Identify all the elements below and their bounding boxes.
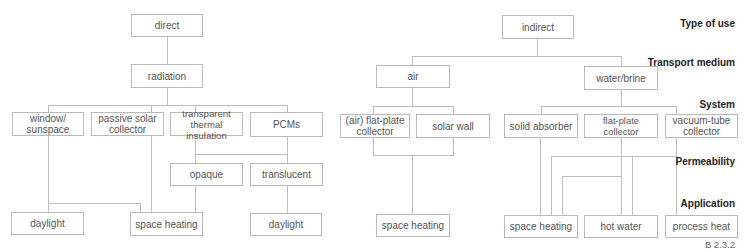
node-indirect: indirect: [502, 15, 574, 39]
node-hot-water: hot water: [584, 215, 658, 238]
node-window-sunspace: window/ sunspace: [12, 112, 84, 136]
node-space-heating-direct: space heating: [130, 212, 203, 236]
connector: [151, 135, 152, 212]
node-space-heating-air: space heating: [376, 214, 450, 237]
connector: [373, 106, 374, 114]
connector: [167, 36, 168, 64]
node-transparent-thermal-insulation: transparent thermal insulation: [170, 112, 243, 136]
node-solar-wall: solar wall: [416, 114, 490, 138]
node-translucent: translucent: [250, 163, 323, 186]
node-pcms: PCMs: [250, 112, 323, 137]
connector: [412, 87, 413, 106]
connector: [48, 105, 49, 112]
connector: [287, 105, 288, 112]
connector: [453, 137, 454, 155]
node-flat-plate-collector: flat-plate collector: [584, 114, 658, 138]
connector: [562, 176, 622, 177]
connector: [541, 106, 542, 114]
node-radiation: radiation: [131, 64, 203, 88]
connector: [167, 87, 168, 105]
node-direct: direct: [131, 14, 203, 37]
connector: [551, 156, 677, 157]
node-air: air: [376, 65, 450, 88]
connector: [48, 203, 141, 204]
node-opaque: opaque: [170, 163, 243, 186]
level-label-type-of-use: Type of use: [680, 18, 735, 29]
connector: [140, 203, 141, 212]
connector: [287, 185, 288, 213]
connector: [373, 106, 454, 107]
connector: [373, 155, 454, 156]
connector: [551, 156, 552, 215]
node-process-heat: process heat: [665, 215, 738, 238]
connector: [453, 106, 454, 114]
connector: [632, 156, 633, 215]
connector: [540, 137, 541, 215]
connector: [151, 105, 152, 112]
connector: [412, 155, 413, 214]
connector: [412, 56, 413, 65]
connector: [373, 137, 374, 155]
node-vacuum-tube-collector: vacuum-tube collector: [665, 114, 738, 138]
connector: [48, 105, 288, 106]
level-label-permeability: Permeability: [676, 156, 735, 167]
connector: [621, 89, 622, 106]
solar-use-diagram: direct radiation window/ sunspace passiv…: [0, 0, 745, 252]
connector: [195, 185, 196, 212]
connector: [195, 154, 288, 155]
level-label-application: Application: [681, 198, 735, 209]
connector: [541, 106, 677, 107]
connector: [412, 56, 622, 57]
node-daylight-1: daylight: [11, 212, 84, 235]
connector: [676, 106, 677, 114]
level-label-system: System: [699, 99, 735, 110]
connector: [537, 38, 538, 56]
figure-number: B 2.3.2: [705, 239, 735, 250]
level-label-transport-medium: Transport medium: [648, 57, 735, 68]
connector: [48, 135, 49, 212]
connector: [562, 176, 563, 215]
connector: [621, 56, 622, 66]
node-solid-absorber: solid absorber: [504, 114, 578, 138]
node-daylight-2: daylight: [250, 213, 322, 236]
node-water-brine: water/brine: [584, 66, 658, 90]
node-passive-solar-collector: passive solar collector: [91, 112, 164, 136]
node-air-flat-plate-collector: (air) flat-plate collector: [340, 114, 410, 138]
node-space-heating-water: space heating: [504, 215, 578, 238]
connector: [676, 137, 677, 215]
connector: [287, 135, 288, 163]
